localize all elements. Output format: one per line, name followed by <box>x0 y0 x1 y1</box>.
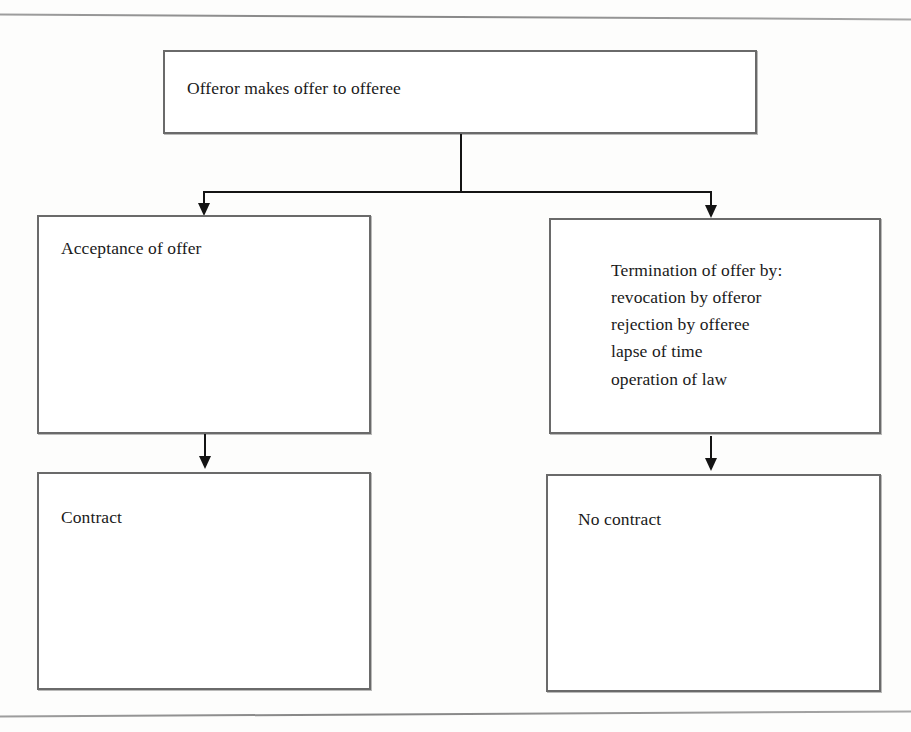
arrowhead-to-termination <box>705 205 717 218</box>
node-termination[interactable]: Termination of offer by: revocation by o… <box>549 218 881 434</box>
node-no-contract-label: No contract <box>578 506 869 533</box>
node-offer[interactable]: Offeror makes offer to offeree <box>163 50 757 134</box>
node-no-contract[interactable]: No contract <box>546 474 881 692</box>
page-rule-bottom <box>0 710 911 717</box>
flowchart-page: Offeror makes offer to offeree Acceptanc… <box>0 0 911 732</box>
node-termination-label: Termination of offer by: revocation by o… <box>611 257 869 393</box>
arrowhead-to-contract <box>199 456 211 469</box>
connector-split-horizontal <box>204 191 712 193</box>
page-rule-top <box>0 14 911 21</box>
connector-stem-vertical <box>460 134 462 192</box>
node-contract-label: Contract <box>61 504 359 531</box>
node-contract[interactable]: Contract <box>37 472 371 690</box>
arrowhead-to-no-contract <box>705 458 717 471</box>
node-acceptance[interactable]: Acceptance of offer <box>37 215 371 434</box>
node-acceptance-label: Acceptance of offer <box>61 235 359 262</box>
node-offer-label: Offeror makes offer to offeree <box>187 75 745 102</box>
